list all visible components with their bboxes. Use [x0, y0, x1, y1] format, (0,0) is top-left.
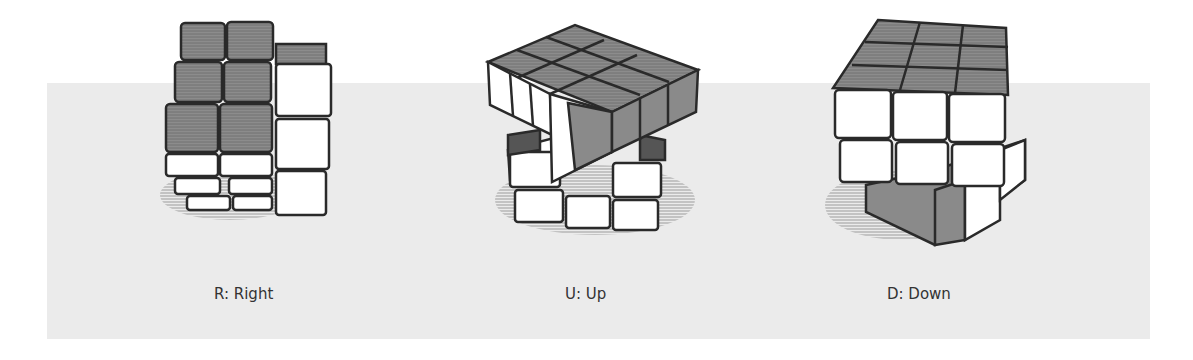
- label-d-down: D: Down: [887, 285, 951, 303]
- cube-d-illustration: [0, 0, 1193, 360]
